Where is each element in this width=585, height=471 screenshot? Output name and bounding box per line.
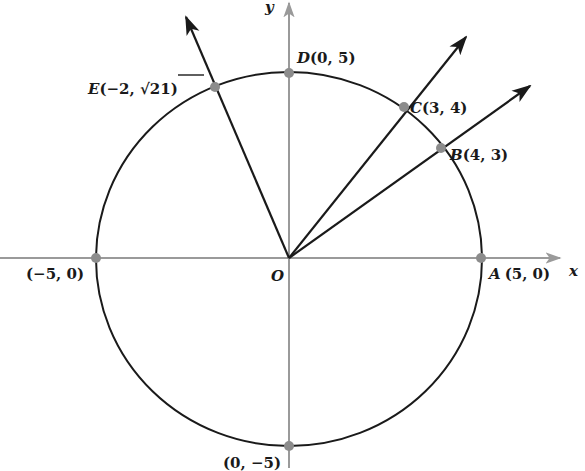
x-axis-label: x [568, 262, 579, 280]
label-left: (−5, 0) [26, 265, 84, 283]
label-C: C(3, 4) [410, 99, 467, 117]
label-E: E(−2, √21) [87, 80, 178, 98]
label-D: D(0, 5) [296, 49, 356, 67]
y-axis-label: y [264, 0, 275, 16]
point-left [91, 253, 101, 263]
label-A: A(5, 0) [487, 265, 550, 283]
sqrt-symbol: √ [140, 80, 150, 98]
point-B [436, 143, 446, 153]
label-B: B(4, 3) [449, 146, 508, 164]
point-bottom [284, 441, 294, 451]
ray-through-E [186, 17, 289, 258]
origin-label: O [271, 267, 284, 285]
point-A [476, 253, 486, 263]
point-C [399, 102, 409, 112]
point-D [284, 68, 294, 78]
label-bottom: (0, −5) [223, 454, 281, 471]
point-E [210, 82, 220, 92]
coordinate-diagram: y x O D(0, 5) C(3, 4) B(4, 3) A(5, 0) (−… [0, 0, 585, 471]
